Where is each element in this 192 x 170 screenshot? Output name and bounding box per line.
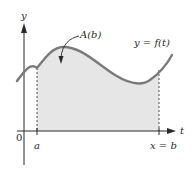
- tick-b-label: x = b: [150, 141, 177, 151]
- curve-label: y = f(t): [134, 38, 170, 48]
- y-axis-arrow-icon: [21, 23, 27, 33]
- y-axis-label: y: [21, 11, 27, 21]
- t-axis-arrow-icon: [167, 128, 176, 134]
- origin-label: 0: [16, 133, 22, 143]
- t-axis-label: t: [180, 126, 184, 136]
- tick-a-label: a: [34, 141, 40, 151]
- area-under-curve-diagram: y t 0 a x = b y = f(t) A(b): [0, 0, 192, 170]
- area-label: A(b): [80, 30, 101, 40]
- shaded-area-region: [37, 47, 159, 131]
